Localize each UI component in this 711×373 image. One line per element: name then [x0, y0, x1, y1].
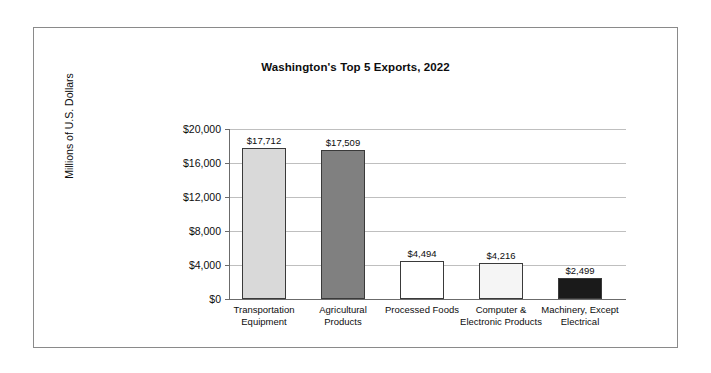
y-axis-title: Millions of U.S. Dollars — [63, 41, 75, 211]
bar-group: $4,494Processed Foods — [383, 129, 462, 299]
bar-value-label: $4,494 — [407, 248, 436, 259]
y-axis-tick-label: $20,000 — [183, 123, 221, 135]
axis-baseline — [230, 299, 626, 300]
bar-series: $17,712Transportation Equipment$17,509Ag… — [230, 129, 626, 299]
x-axis-category-label: Computer & Electronic Products — [460, 304, 542, 327]
y-axis-tick-label: $16,000 — [183, 157, 221, 169]
bar-group: $17,509Agricultural Products — [304, 129, 383, 299]
y-axis-tick-label: $4,000 — [189, 259, 221, 271]
y-axis-tick-label: $0 — [209, 293, 221, 305]
x-axis-category-label: Machinery, Except Electrical — [539, 304, 621, 327]
x-axis-category-label: Transportation Equipment — [223, 304, 305, 327]
bar[interactable] — [242, 148, 286, 299]
x-axis-category-label: Processed Foods — [381, 304, 463, 316]
bar-value-label: $17,712 — [247, 135, 281, 146]
bar[interactable] — [400, 261, 444, 299]
figure-frame: Washington's Top 5 Exports, 2022 Million… — [33, 27, 678, 348]
bar-value-label: $17,509 — [326, 137, 360, 148]
bar-value-label: $4,216 — [486, 250, 515, 261]
chart-page: Washington's Top 5 Exports, 2022 Million… — [0, 0, 711, 373]
plot-area: $0$4,000$8,000$12,000$16,000$20,000 $17,… — [230, 129, 626, 299]
bar-group: $2,499Machinery, Except Electrical — [541, 129, 620, 299]
bar-value-label: $2,499 — [565, 265, 594, 276]
bar[interactable] — [479, 263, 523, 299]
y-axis-tick-label: $8,000 — [189, 225, 221, 237]
bar[interactable] — [321, 150, 365, 299]
y-axis-tick-label: $12,000 — [183, 191, 221, 203]
y-axis-tick — [225, 299, 230, 300]
bar-group: $17,712Transportation Equipment — [225, 129, 304, 299]
chart-title: Washington's Top 5 Exports, 2022 — [34, 61, 677, 73]
bar-group: $4,216Computer & Electronic Products — [462, 129, 541, 299]
bar[interactable] — [558, 278, 602, 299]
x-axis-category-label: Agricultural Products — [302, 304, 384, 327]
